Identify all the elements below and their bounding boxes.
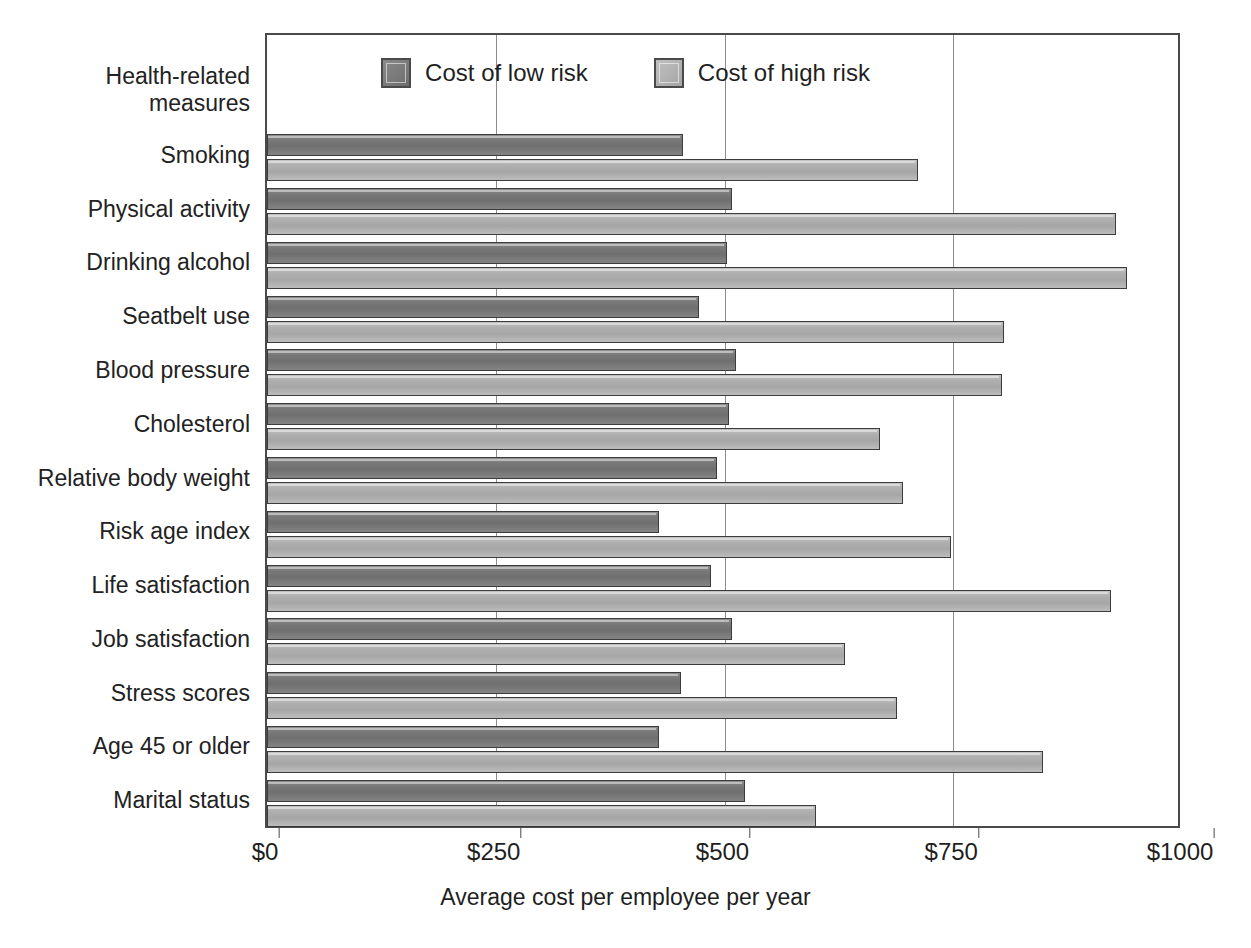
- x-tick-mark: [978, 828, 979, 838]
- y-label-relative-body-weight: Relative body weight: [38, 465, 250, 492]
- bar-highlight: [268, 351, 733, 353]
- x-tick-mark: [278, 828, 279, 838]
- bar-highlight: [268, 376, 999, 378]
- bar-high-risk: [267, 805, 816, 827]
- bar-low-risk: [267, 672, 681, 694]
- bar-high-risk: [267, 536, 951, 558]
- bar-highlight: [268, 323, 1001, 325]
- y-label-job-satisfaction: Job satisfaction: [91, 626, 250, 653]
- y-label-age-45-or-older: Age 45 or older: [93, 733, 250, 760]
- bar-highlight: [268, 699, 894, 701]
- bar-highlight: [268, 244, 724, 246]
- x-tick-label: $1000: [1147, 838, 1214, 866]
- y-label-life-satisfaction: Life satisfaction: [91, 572, 250, 599]
- y-label-seatbelt-use: Seatbelt use: [122, 303, 250, 330]
- x-tick-label: $750: [925, 838, 978, 866]
- bar-highlight: [268, 190, 729, 192]
- bar-low-risk: [267, 349, 736, 371]
- y-label-smoking: Smoking: [161, 142, 250, 169]
- bar-high-risk: [267, 482, 903, 504]
- bar-highlight: [268, 728, 656, 730]
- bar-low-risk: [267, 242, 727, 264]
- bar-high-risk: [267, 751, 1043, 773]
- y-label-physical-activity: Physical activity: [88, 196, 250, 223]
- bar-highlight: [268, 269, 1124, 271]
- y-label-marital-status: Marital status: [113, 787, 250, 814]
- bar-low-risk: [267, 403, 729, 425]
- bar-low-risk: [267, 565, 711, 587]
- x-tick-label: $250: [467, 838, 520, 866]
- plot-area: [265, 33, 1180, 828]
- bar-low-risk: [267, 726, 659, 748]
- bar-high-risk: [267, 321, 1004, 343]
- bar-highlight: [268, 405, 726, 407]
- y-label-risk-age-index: Risk age index: [99, 518, 250, 545]
- y-label-cholesterol: Cholesterol: [134, 411, 250, 438]
- bar-low-risk: [267, 188, 732, 210]
- bar-highlight: [268, 753, 1040, 755]
- x-tick-mark: [520, 828, 521, 838]
- bar-high-risk: [267, 213, 1116, 235]
- bar-high-risk: [267, 428, 880, 450]
- bar-high-risk: [267, 643, 845, 665]
- bar-highlight: [268, 674, 678, 676]
- bar-low-risk: [267, 134, 683, 156]
- bar-high-risk: [267, 697, 897, 719]
- bar-highlight: [268, 484, 900, 486]
- bar-low-risk: [267, 780, 745, 802]
- bar-highlight: [268, 136, 680, 138]
- y-label-blood-pressure: Blood pressure: [95, 357, 250, 384]
- bar-highlight: [268, 298, 696, 300]
- x-tick-label: $500: [696, 838, 749, 866]
- bar-highlight: [268, 592, 1108, 594]
- x-axis-title: Average cost per employee per year: [0, 884, 1251, 911]
- bar-highlight: [268, 645, 842, 647]
- bar-highlight: [268, 161, 915, 163]
- y-axis-header: Health-related measures: [106, 63, 250, 117]
- bar-high-risk: [267, 374, 1002, 396]
- gridline-750: [953, 35, 954, 826]
- bar-highlight: [268, 513, 656, 515]
- bar-highlight: [268, 807, 813, 809]
- bar-highlight: [268, 538, 948, 540]
- x-tick-mark: [1213, 828, 1214, 838]
- x-tick-mark: [749, 828, 750, 838]
- bar-highlight: [268, 567, 708, 569]
- bar-low-risk: [267, 618, 732, 640]
- y-label-stress-scores: Stress scores: [111, 680, 250, 707]
- x-axis-ticks: $0$250$500$750$1000: [0, 830, 1251, 870]
- bar-low-risk: [267, 511, 659, 533]
- bar-high-risk: [267, 159, 918, 181]
- bar-highlight: [268, 782, 742, 784]
- bar-highlight: [268, 620, 729, 622]
- bar-high-risk: [267, 590, 1111, 612]
- bar-highlight: [268, 459, 714, 461]
- y-label-drinking-alcohol: Drinking alcohol: [86, 249, 250, 276]
- bar-high-risk: [267, 267, 1127, 289]
- bar-highlight: [268, 215, 1113, 217]
- bar-low-risk: [267, 296, 699, 318]
- x-tick-label: $0: [252, 838, 279, 866]
- bar-highlight: [268, 430, 877, 432]
- bar-low-risk: [267, 457, 717, 479]
- bar-chart: Health-related measuresSmokingPhysical a…: [0, 0, 1251, 948]
